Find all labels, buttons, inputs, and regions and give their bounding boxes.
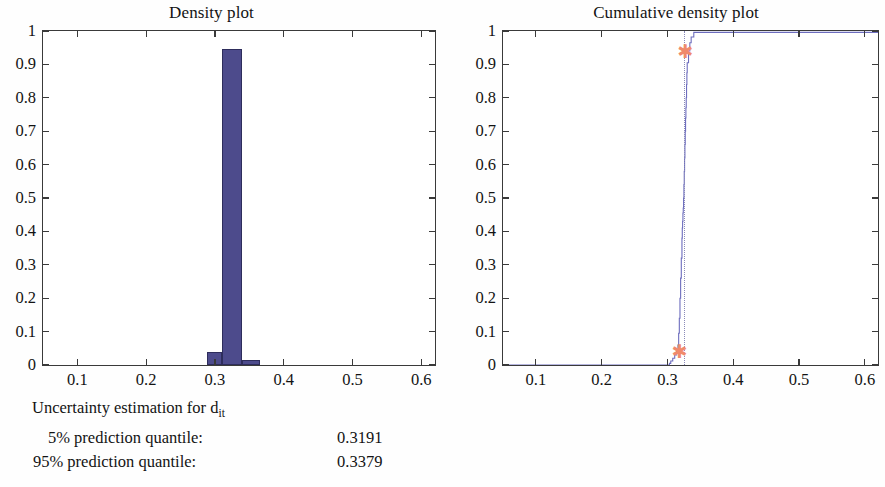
y-tick-label: 0.9 <box>15 54 36 74</box>
y-tick-mark <box>43 64 49 65</box>
y-tick-label: 0 <box>28 355 36 375</box>
y-tick-label: 0.5 <box>15 188 36 208</box>
x-tick-mark <box>798 31 799 37</box>
y-tick-mark <box>43 97 49 98</box>
x-tick-mark <box>601 31 602 37</box>
cumulative-density-plot-panel: Cumulative density plot ✱✱ 00.10.20.30.4… <box>447 0 885 487</box>
y-tick-mark <box>872 298 878 299</box>
histogram-bar <box>242 360 260 365</box>
x-tick-label: 0.1 <box>526 370 547 390</box>
density-plot-title: Density plot <box>0 3 435 23</box>
y-tick-mark <box>429 231 435 232</box>
y-tick-label: 0.6 <box>475 154 496 174</box>
y-tick-mark <box>43 264 49 265</box>
cdf-path <box>503 31 878 365</box>
x-tick-mark <box>283 31 284 37</box>
y-tick-mark <box>429 298 435 299</box>
x-tick-mark <box>77 359 78 365</box>
x-tick-mark <box>601 359 602 365</box>
y-tick-mark <box>43 164 49 165</box>
x-tick-label: 0.6 <box>855 370 876 390</box>
x-tick-label: 0.1 <box>67 370 88 390</box>
y-tick-mark <box>503 131 509 132</box>
y-tick-mark <box>503 264 509 265</box>
y-tick-label: 0.4 <box>15 221 36 241</box>
uncertainty-estimation-subscript: it <box>219 407 225 419</box>
density-plot-axes: 00.10.20.30.40.50.60.70.80.910.10.20.30.… <box>42 30 436 366</box>
y-tick-mark <box>429 30 435 31</box>
y-tick-label: 1 <box>488 21 496 41</box>
y-tick-mark <box>43 331 49 332</box>
y-tick-mark <box>429 164 435 165</box>
y-tick-label: 0 <box>488 355 496 375</box>
x-tick-mark <box>535 359 536 365</box>
quantile-marker-icon: ✱ <box>678 42 694 61</box>
y-tick-label: 1 <box>28 21 36 41</box>
y-tick-mark <box>429 331 435 332</box>
y-tick-mark <box>503 197 509 198</box>
y-tick-mark <box>429 131 435 132</box>
y-tick-label: 0.9 <box>475 54 496 74</box>
y-tick-mark <box>429 264 435 265</box>
cumulative-density-plot-area: ✱✱ <box>503 31 878 365</box>
y-tick-label: 0.3 <box>15 255 36 275</box>
uncertainty-estimation-heading-text: Uncertainty estimation for d <box>32 398 219 417</box>
y-tick-mark <box>872 131 878 132</box>
y-tick-label: 0.6 <box>15 154 36 174</box>
y-tick-mark <box>429 364 435 365</box>
y-tick-mark <box>503 298 509 299</box>
y-tick-mark <box>43 30 49 31</box>
y-tick-mark <box>872 197 878 198</box>
y-tick-mark <box>429 64 435 65</box>
cumulative-density-plot-axes: ✱✱ 00.10.20.30.40.50.60.70.80.910.10.20.… <box>502 30 879 366</box>
y-tick-mark <box>872 231 878 232</box>
y-tick-mark <box>872 331 878 332</box>
mean-reference-line <box>684 31 685 365</box>
quantile-95-label: 95% prediction quantile: <box>33 452 196 472</box>
quantile-95-value: 0.3379 <box>337 452 382 472</box>
y-tick-label: 0.3 <box>475 255 496 275</box>
cdf-curve <box>503 31 878 365</box>
uncertainty-estimation-heading: Uncertainty estimation for dit <box>32 398 225 419</box>
y-tick-mark <box>43 131 49 132</box>
quantile-marker-icon: ✱ <box>672 341 688 360</box>
x-tick-mark <box>421 31 422 37</box>
x-tick-label: 0.5 <box>342 370 363 390</box>
y-tick-label: 0.2 <box>475 288 496 308</box>
density-plot-area <box>43 31 435 365</box>
y-tick-mark <box>503 231 509 232</box>
y-tick-mark <box>503 64 509 65</box>
quantile-5-value: 0.3191 <box>337 428 382 448</box>
y-tick-label: 0.1 <box>475 321 496 341</box>
x-tick-mark <box>146 359 147 365</box>
y-tick-mark <box>429 97 435 98</box>
cumulative-density-plot-title: Cumulative density plot <box>457 3 885 23</box>
x-tick-label: 0.3 <box>205 370 226 390</box>
x-tick-mark <box>214 31 215 37</box>
x-tick-mark <box>864 31 865 37</box>
x-tick-mark <box>733 359 734 365</box>
x-tick-label: 0.2 <box>591 370 612 390</box>
histogram-bar <box>222 49 242 365</box>
x-tick-mark <box>667 359 668 365</box>
x-tick-mark <box>667 31 668 37</box>
y-tick-mark <box>43 197 49 198</box>
x-tick-label: 0.6 <box>411 370 432 390</box>
x-tick-mark <box>352 31 353 37</box>
y-tick-label: 0.2 <box>15 288 36 308</box>
x-tick-label: 0.4 <box>723 370 744 390</box>
y-tick-mark <box>872 164 878 165</box>
y-tick-label: 0.1 <box>15 321 36 341</box>
x-tick-mark <box>535 31 536 37</box>
y-tick-label: 0.8 <box>15 88 36 108</box>
density-plot-panel: Density plot 00.10.20.30.40.50.60.70.80.… <box>0 0 447 487</box>
y-tick-label: 0.7 <box>475 121 496 141</box>
y-tick-label: 0.4 <box>475 221 496 241</box>
y-tick-mark <box>43 231 49 232</box>
y-tick-mark <box>43 298 49 299</box>
x-tick-mark <box>283 359 284 365</box>
y-tick-label: 0.5 <box>475 188 496 208</box>
y-tick-mark <box>503 30 509 31</box>
y-tick-mark <box>429 197 435 198</box>
y-tick-label: 0.7 <box>15 121 36 141</box>
